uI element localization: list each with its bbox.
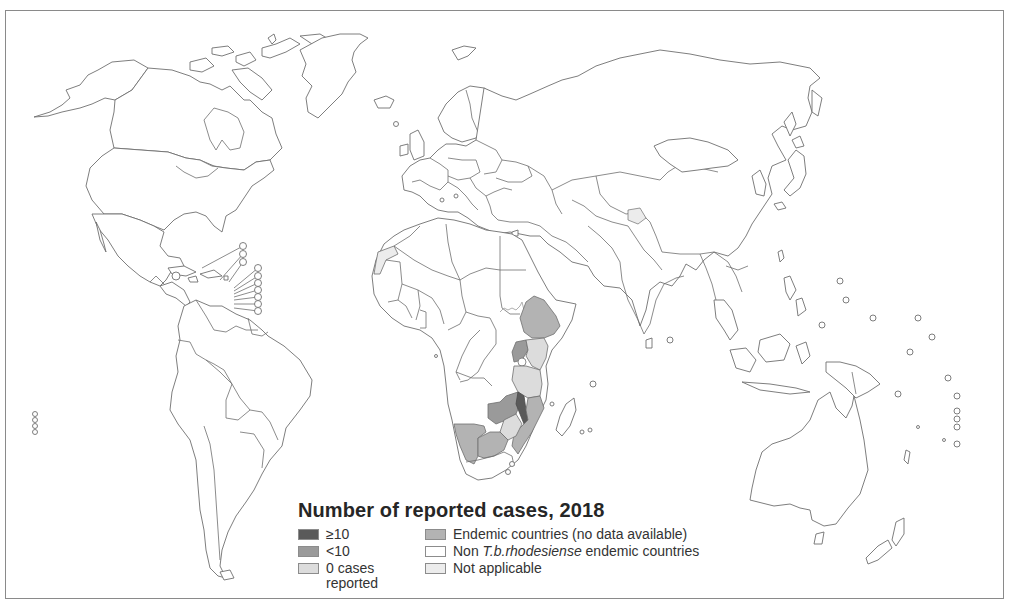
- legend-item-non-endemic: Non T.b.rhodesiense endemic countries: [425, 544, 699, 559]
- map-legend: Number of reported cases, 2018 ≥10 <10 0…: [298, 499, 718, 584]
- small-island-markers-caribbean: [202, 243, 262, 315]
- legend-label-non-endemic-suffix: endemic countries: [582, 543, 700, 559]
- legend-swatch-lt10: [298, 546, 319, 557]
- small-island-markers-atlantic: [33, 412, 38, 435]
- legend-item-not-applicable: Not applicable: [425, 561, 542, 576]
- legend-swatch-not-applicable: [425, 563, 446, 574]
- legend-swatch-zero: [298, 563, 319, 574]
- legend-label-ge10: ≥10: [326, 527, 349, 542]
- legend-label-not-applicable: Not applicable: [453, 561, 542, 576]
- legend-label-non-endemic: Non T.b.rhodesiense endemic countries: [453, 544, 699, 559]
- legend-item-ge10: ≥10: [298, 527, 349, 542]
- legend-label-zero-line1: 0 cases: [326, 560, 374, 576]
- legend-item-lt10: <10: [298, 544, 350, 559]
- north-america: [34, 34, 368, 306]
- legend-title: Number of reported cases, 2018: [298, 499, 604, 522]
- legend-item-zero: 0 cases reported: [298, 561, 378, 591]
- africa: [372, 218, 596, 480]
- legend-item-endemic-no-data: Endemic countries (no data available): [425, 527, 687, 542]
- legend-label-zero-line2: reported: [326, 575, 378, 591]
- legend-swatch-ge10: [298, 529, 319, 540]
- oceania: [750, 392, 910, 564]
- legend-swatch-endemic-no-data: [425, 529, 446, 540]
- legend-label-lt10: <10: [326, 544, 350, 559]
- legend-swatch-non-endemic: [425, 546, 446, 557]
- south-america: [170, 300, 312, 580]
- legend-label-endemic-no-data: Endemic countries (no data available): [453, 527, 687, 542]
- legend-label-zero: 0 cases reported: [326, 561, 378, 591]
- legend-label-non-endemic-prefix: Non: [453, 543, 483, 559]
- legend-label-non-endemic-species: T.b.rhodesiense: [483, 543, 582, 559]
